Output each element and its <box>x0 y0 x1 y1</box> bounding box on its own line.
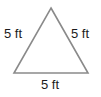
right-side-length-label: 5 ft <box>71 27 89 40</box>
bottom-side-length-label: 5 ft <box>41 78 59 91</box>
triangle-figure: 5 ft 5 ft 5 ft <box>0 0 101 97</box>
left-side-length-label: 5 ft <box>4 27 22 40</box>
